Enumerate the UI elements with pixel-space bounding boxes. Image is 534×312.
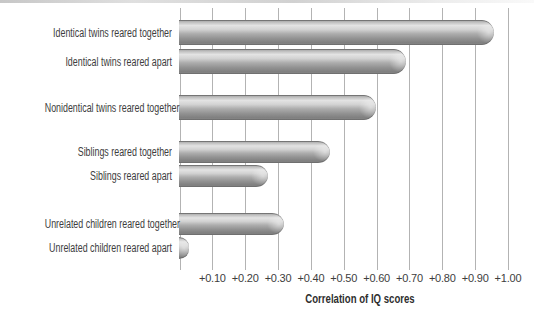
gridline <box>409 8 410 270</box>
category-label: Unrelated children reared apart <box>45 240 172 256</box>
category-label: Siblings reared apart <box>45 168 172 184</box>
x-axis-title: Correlation of IQ scores <box>280 292 440 306</box>
gridline <box>344 8 345 270</box>
gridline <box>475 8 476 270</box>
bar-identical-twins-reared-together <box>179 20 494 45</box>
page-edge-artifact <box>0 0 534 3</box>
category-label: Identical twins reared together <box>45 25 172 41</box>
gridline <box>377 8 378 270</box>
gridline <box>311 8 312 270</box>
gridline <box>508 8 509 270</box>
gridline <box>442 8 443 270</box>
bar-unrelated-children-reared-apart <box>179 237 189 259</box>
category-label: Siblings reared together <box>45 144 172 160</box>
category-label: Unrelated children reared together <box>45 216 172 232</box>
iq-correlation-bar-chart: Identical twins reared togetherIdentical… <box>0 0 534 312</box>
category-label: Nonidentical twins reared together <box>45 100 172 116</box>
x-tick-label: +1.00 <box>486 272 530 284</box>
bar-siblings-reared-apart <box>179 165 268 187</box>
category-label: Identical twins reared apart <box>45 54 172 70</box>
bar-siblings-reared-together <box>179 141 330 163</box>
bar-nonidentical-twins-reared-together <box>179 95 376 120</box>
bar-identical-twins-reared-apart <box>179 49 406 74</box>
bar-unrelated-children-reared-together <box>179 213 284 235</box>
